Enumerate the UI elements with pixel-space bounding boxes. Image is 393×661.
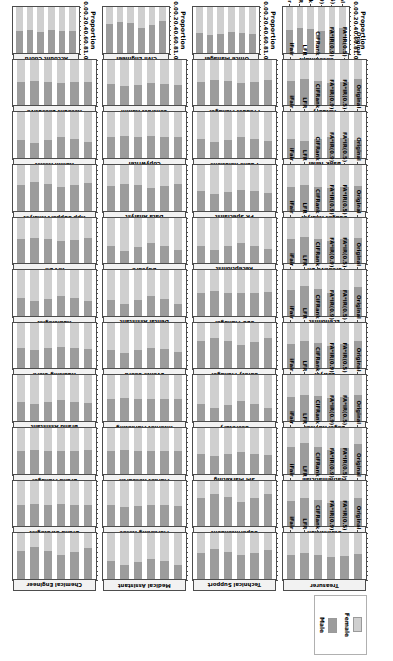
stacked-bar (70, 165, 78, 212)
method-axis-labels: OriginalFA*IR(0.5)FA*IR(0.9)CIFRankLFRiF… (283, 290, 366, 322)
bar-segment-male (237, 502, 245, 528)
bar-segment-female (160, 533, 168, 561)
x-axis-ticks (276, 112, 279, 159)
bar-segment-male (120, 136, 128, 159)
bar-segment-female (17, 218, 25, 240)
bar-segment-male (44, 402, 52, 422)
stacked-bar (264, 375, 272, 422)
bar-segment-female (134, 533, 142, 561)
method-label: FA*IR(0.5) (340, 342, 348, 374)
stacked-bar (160, 323, 168, 370)
bar-segment-female (264, 323, 272, 338)
stacked-bar (37, 7, 44, 54)
bar-segment-female (264, 481, 272, 495)
bar-segment-male (197, 82, 205, 107)
facet-panel: SM Marketing (192, 427, 277, 476)
stacked-bar (107, 112, 115, 159)
bar-segment-female (250, 60, 258, 82)
bar-segment-male (70, 185, 78, 211)
stacked-bar (134, 165, 142, 212)
bar-segment-female (340, 533, 348, 555)
method-label: iFair (287, 448, 295, 480)
stacked-bar (70, 428, 78, 475)
axis-title: Proportion (269, 6, 277, 55)
bar-segment-male (147, 136, 155, 159)
stacked-bar (30, 481, 38, 528)
bar-segment-female (264, 428, 272, 455)
facet-panel: Chemical Engineer (12, 532, 97, 581)
bar-segment-female (120, 428, 128, 450)
stacked-bar (237, 533, 245, 580)
facet-strip-label: Medical Assistant (103, 579, 186, 591)
bar-segment-female (239, 7, 246, 33)
method-label: LFR (300, 132, 308, 164)
x-tick-label: 0.4 (83, 21, 89, 31)
bar-segment-female (210, 60, 218, 80)
bar-segment-female (354, 375, 362, 395)
bar-segment-female (127, 7, 134, 23)
stacked-bar (210, 165, 218, 212)
method-axis-labels: OriginalFA*IR(0.5)FA*IR(0.9)CIFRankLFRiF… (283, 342, 366, 374)
method-label: FA*IR(0.9) (327, 27, 335, 59)
stacked-bar (57, 323, 65, 370)
stacked-bar (149, 7, 156, 54)
stacked-bar (264, 218, 272, 265)
stacked-bar (210, 270, 218, 317)
method-label: FA*IR(0.9) (327, 500, 335, 532)
method-label: FA*IR(0.5) (340, 132, 348, 164)
stacked-bar (147, 218, 155, 265)
bar-segment-male (160, 349, 168, 369)
facet-panel: Medical Assistant (102, 532, 187, 581)
method-label: FA*IR(0.9) (318, 0, 325, 6)
stacked-bar (207, 7, 214, 54)
stacked-bar (30, 218, 38, 265)
method-label: LFR (300, 342, 308, 374)
bar-segment-female (249, 7, 256, 34)
bar-segment-male (70, 139, 78, 159)
facet-panel: Daycare (102, 217, 187, 266)
bar-segment-female (120, 218, 128, 251)
bar-segment-female (160, 375, 168, 398)
bar-segment-male (84, 403, 92, 422)
x-axis-ticks (366, 428, 369, 475)
stacked-bar (197, 165, 205, 212)
stacked-bar (59, 7, 66, 54)
stacked-bar (70, 481, 78, 528)
bar-segment-female (84, 428, 92, 450)
facet-panel: Product Manager (192, 59, 277, 108)
stacked-bar (250, 428, 258, 475)
bar-segment-male (147, 83, 155, 106)
panel-plot-area: Technical Support (192, 532, 277, 581)
method-label: LFR (300, 79, 308, 111)
x-axis-ticks (96, 165, 99, 212)
stacked-bar (16, 7, 23, 54)
bar-segment-female (30, 375, 38, 403)
bar-segment-female (160, 112, 168, 136)
bar-segment-male (210, 142, 218, 159)
bar-segment-female (174, 60, 182, 86)
x-axis-ticks (366, 533, 369, 580)
bar-segment-female (149, 7, 156, 25)
panel-plot-area: Admin Assist (12, 111, 97, 160)
bar-segment-male (134, 185, 142, 211)
bar-segment-male (237, 137, 245, 158)
bar-segment-male (44, 82, 52, 106)
bar-segment-female (224, 165, 232, 192)
stacked-bar (250, 218, 258, 265)
bar-segment-male (160, 84, 168, 106)
bar-segment-male (84, 548, 92, 580)
stacked-bar (44, 270, 52, 317)
bar-segment-female (147, 375, 155, 398)
bar-segment-female (30, 218, 38, 238)
bar-segment-female (17, 60, 25, 83)
facet-panel: Brand Assistant (12, 374, 97, 423)
method-label: Original (354, 500, 362, 532)
x-axis-ticks (276, 165, 279, 212)
bar-segment-female (207, 7, 214, 35)
stacked-bar (30, 112, 38, 159)
stacked-bar (120, 112, 128, 159)
bar-segment-male (239, 33, 246, 54)
bar-segment-female (160, 481, 168, 506)
bar-segment-female (44, 375, 52, 402)
stacked-bar (264, 270, 272, 317)
